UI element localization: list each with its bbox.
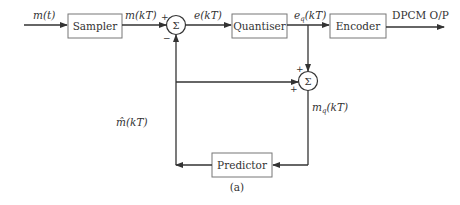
label-quantised-error: eq(kT) xyxy=(294,9,326,23)
label-input: m(t) xyxy=(33,9,55,21)
label-quantised-sample: mq(kT) xyxy=(312,101,348,115)
dpcm-diagram: m(t) Sampler m(kT) Σ + − e(kT) Quantiser… xyxy=(0,0,460,205)
predictor-label: Predictor xyxy=(217,159,268,171)
sampler-label: Sampler xyxy=(73,20,119,32)
label-predicted: m̂(kT) xyxy=(116,116,148,128)
sum2-plus-left: + xyxy=(290,84,298,94)
sigma-1: Σ xyxy=(172,20,179,31)
quantiser-label: Quantiser xyxy=(233,20,287,32)
sum1-minus: − xyxy=(163,33,171,43)
label-error: e(kT) xyxy=(194,9,222,21)
sum1-plus: + xyxy=(161,12,169,22)
label-output: DPCM O/P xyxy=(392,9,449,21)
figure-caption: (a) xyxy=(230,181,244,193)
sum2-plus-top: + xyxy=(296,64,304,74)
encoder-label: Encoder xyxy=(336,20,382,32)
label-sampled: m(kT) xyxy=(125,9,157,21)
sigma-2: Σ xyxy=(304,76,311,87)
